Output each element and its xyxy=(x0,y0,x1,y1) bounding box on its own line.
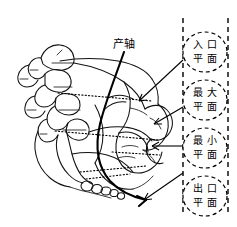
callout-outlet-char-2: 口 xyxy=(207,183,217,194)
plane-line-least xyxy=(112,152,160,155)
leader-inlet xyxy=(139,60,183,101)
callout-greatest[interactable]: 最 大 平 面 xyxy=(183,80,227,120)
leader-outlet-arrowhead xyxy=(144,193,152,200)
anatomy-figure: 产轴 入 口 平 面 最 大 xyxy=(0,0,237,227)
callout-inlet-char-3: 平 xyxy=(193,53,203,64)
callout-greatest-ellipse xyxy=(183,80,227,120)
leader-lines-group xyxy=(139,60,183,200)
callout-least-char-2: 小 xyxy=(207,135,217,146)
callout-least-ellipse xyxy=(183,128,227,168)
callout-least-char-1: 最 xyxy=(193,135,203,146)
callout-inlet-char-4: 面 xyxy=(207,53,217,64)
birth-axis-label: 产轴 xyxy=(113,37,135,51)
leader-outlet xyxy=(144,173,183,200)
callout-least-char-4: 面 xyxy=(207,149,217,160)
callout-outlet-char-1: 出 xyxy=(193,182,203,194)
callout-greatest-char-3: 平 xyxy=(193,101,203,112)
birth-axis-arrowhead xyxy=(137,196,146,206)
callout-inlet[interactable]: 入 口 平 面 xyxy=(183,32,227,72)
callout-least-char-3: 平 xyxy=(193,149,203,160)
callout-inlet-char-2: 口 xyxy=(207,39,217,50)
callout-greatest-char-1: 最 xyxy=(193,87,203,98)
callout-outlet-ellipse xyxy=(183,176,227,216)
callout-inlet-char-1: 入 xyxy=(193,39,203,50)
callout-greatest-char-2: 大 xyxy=(207,86,217,98)
callout-inlet-ellipse xyxy=(183,32,227,72)
callout-outlet[interactable]: 出 口 平 面 xyxy=(183,176,227,216)
ilium-group xyxy=(60,59,158,172)
plane-line-outlet xyxy=(80,166,146,172)
callout-least[interactable]: 最 小 平 面 xyxy=(183,128,227,168)
callout-greatest-char-4: 面 xyxy=(207,101,217,112)
birth-axis-group: 产轴 xyxy=(97,37,146,206)
plane-line-inlet xyxy=(58,93,152,101)
callout-outlet-char-3: 平 xyxy=(193,197,203,208)
lumbar-spine-group xyxy=(18,45,125,199)
callout-outlet-char-4: 面 xyxy=(207,197,217,208)
